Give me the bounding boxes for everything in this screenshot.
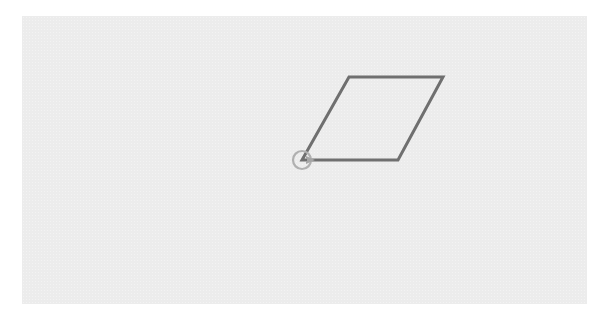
- parallelogram-shape: [302, 77, 443, 160]
- drawing-layer: [0, 0, 605, 314]
